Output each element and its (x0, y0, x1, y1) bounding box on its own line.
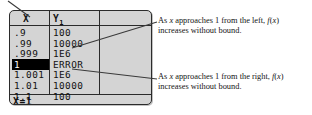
annotation-2-paren-close: ) (281, 72, 284, 81)
cell-y1: 100 (53, 27, 71, 38)
cell-y1: ERROR (53, 59, 83, 70)
cell-y1: 1E6 (53, 48, 71, 59)
annotation-1-mid: approaches 1 from the left, (173, 16, 267, 25)
cell-y1: 10000 (53, 80, 83, 91)
calculator-table: X Y1 .9 100 .99 10000 .999 1E6 1 ERROR 1… (10, 11, 151, 104)
cell-x-selected: 1 (12, 59, 49, 70)
annotation-left-approach: As x approaches 1 from the left, f(x) in… (158, 16, 310, 37)
graphing-calculator-screen: X Y1 .9 100 .99 10000 .999 1E6 1 ERROR 1… (9, 10, 152, 105)
table-row[interactable]: .999 1E6 (10, 48, 151, 59)
table-row[interactable]: .99 10000 (10, 38, 151, 49)
annotation-1-pre: As (158, 16, 169, 25)
cell-x: .99 (14, 38, 32, 49)
cell-x: .999 (14, 48, 38, 59)
header-cell-x: X (23, 13, 29, 24)
cell-x: 1.001 (14, 69, 44, 80)
table-header-row: X Y1 (10, 13, 151, 24)
annotation-1-paren-close: ) (276, 16, 279, 25)
annotation-right-approach: As x approaches 1 from the right, f(x) i… (158, 72, 310, 93)
annotation-2-line1: As x approaches 1 from the right, f(x) (158, 72, 284, 81)
table-row[interactable]: 1.01 10000 (10, 80, 151, 91)
annotation-2-line2: increases without bound. (158, 82, 310, 92)
cell-y1: 100 (53, 91, 71, 102)
calculator-limit-figure: X Y1 .9 100 .99 10000 .999 1E6 1 ERROR 1… (0, 0, 312, 115)
annotation-1-line2: increases without bound. (158, 26, 310, 36)
status-line: X=1 (13, 96, 32, 106)
table-row[interactable]: .9 100 (10, 27, 151, 38)
cell-y1: 10000 (53, 38, 83, 49)
annotation-1-line1: As x approaches 1 from the left, f(x) (158, 16, 279, 25)
cell-x: .9 (14, 27, 26, 38)
table-row-selected[interactable]: 1 ERROR (10, 59, 151, 70)
table-row[interactable]: 1.001 1E6 (10, 69, 151, 80)
annotation-2-mid: approaches 1 from the right, (173, 72, 272, 81)
cell-x: 1.01 (14, 80, 38, 91)
cell-y1: 1E6 (53, 69, 71, 80)
annotation-2-pre: As (158, 72, 169, 81)
header-cell-y1-subscript: 1 (59, 19, 63, 27)
